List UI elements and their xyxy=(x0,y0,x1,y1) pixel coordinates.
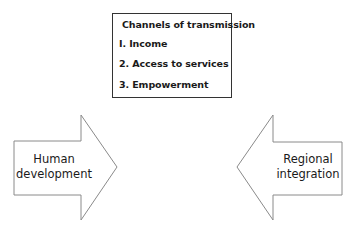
regional-integration-label: Regional integration xyxy=(268,152,348,182)
regional-integration-line1: Regional xyxy=(268,152,348,167)
human-development-label: Human development xyxy=(14,152,94,182)
human-development-line2: development xyxy=(14,167,94,182)
regional-integration-line2: integration xyxy=(268,167,348,182)
arrows-layer xyxy=(0,0,355,233)
human-development-line1: Human xyxy=(14,152,94,167)
